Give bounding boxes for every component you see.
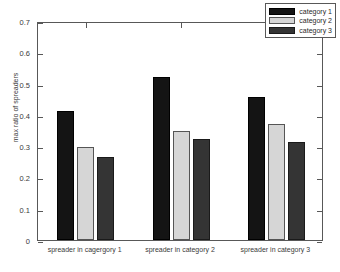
bar-3-series-3	[288, 142, 305, 240]
y-tick-label: 0.6	[20, 49, 30, 58]
y-tick-mark-right	[317, 148, 322, 149]
legend-item-1[interactable]: category 1	[269, 7, 332, 16]
x-tick-mark-top	[86, 23, 87, 28]
x-category-label: spreader in category 2	[145, 246, 215, 253]
legend-label: category 3	[299, 27, 332, 34]
y-tick-mark-right	[317, 86, 322, 87]
y-tick-label: 0.7	[20, 18, 30, 27]
plot-area	[37, 22, 323, 241]
bar-1-series-2	[77, 147, 94, 240]
y-tick-mark	[38, 179, 43, 180]
bar-3-series-1	[248, 97, 265, 240]
bar-2-series-2	[173, 131, 190, 240]
legend-swatch-icon	[269, 17, 295, 24]
y-axis-title: max ratio of spreaders	[12, 48, 19, 168]
y-tick-label: 0.4	[20, 111, 30, 120]
x-tick-mark-top	[181, 23, 182, 28]
legend-item-3[interactable]: category 3	[269, 26, 332, 35]
bar-3-series-2	[268, 124, 285, 240]
bar-1-series-3	[97, 157, 114, 240]
y-tick-mark-right	[317, 179, 322, 180]
y-tick-mark	[38, 117, 43, 118]
y-tick-mark-right	[317, 242, 322, 243]
y-tick-label: 0	[26, 237, 30, 246]
bar-chart-figure: 00.10.20.30.40.50.60.7 max ratio of spre…	[0, 0, 340, 272]
y-tick-mark-right	[317, 54, 322, 55]
bar-2-series-3	[193, 139, 210, 240]
y-tick-label: 0.5	[20, 80, 30, 89]
y-tick-mark	[38, 23, 43, 24]
legend-item-2[interactable]: category 2	[269, 16, 332, 25]
legend-label: category 2	[299, 17, 332, 24]
x-category-label: spreader in cagergory 1	[48, 246, 122, 253]
y-tick-label: 0.3	[20, 143, 30, 152]
y-tick-mark	[38, 54, 43, 55]
bar-2-series-1	[153, 77, 170, 240]
bar-1-series-1	[57, 111, 74, 240]
y-tick-mark-right	[317, 117, 322, 118]
chart-legend[interactable]: category 1category 2category 3	[265, 3, 336, 38]
legend-label: category 1	[299, 8, 332, 15]
y-tick-mark	[38, 148, 43, 149]
y-tick-mark-right	[317, 211, 322, 212]
y-tick-label: 0.2	[20, 174, 30, 183]
x-category-label: spreader in category 3	[241, 246, 311, 253]
y-tick-mark	[38, 242, 43, 243]
y-tick-mark	[38, 86, 43, 87]
legend-swatch-icon	[269, 27, 295, 34]
y-tick-mark	[38, 211, 43, 212]
legend-swatch-icon	[269, 8, 295, 15]
y-tick-label: 0.1	[20, 205, 30, 214]
